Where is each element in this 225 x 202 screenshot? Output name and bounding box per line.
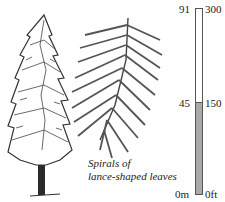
conifer-branch-icon — [72, 18, 162, 158]
caption-line-2: lance-shaped leaves — [88, 170, 177, 183]
scale-label-ft-top: 300 — [205, 3, 222, 15]
scale-label-ft-mid: 150 — [205, 97, 222, 109]
scale-label-ft-bottom: 0ft — [205, 188, 217, 200]
caption: Spirals of lance-shaped leaves — [88, 157, 177, 183]
height-scale-bar — [195, 8, 203, 195]
caption-line-1: Spirals of — [88, 157, 177, 170]
conifer-tree-icon — [8, 15, 72, 196]
scale-label-m-top: 91 — [179, 3, 190, 15]
scale-midpoint-tick — [196, 102, 202, 103]
scale-label-m-mid: 45 — [179, 97, 190, 109]
scale-label-m-bottom: 0m — [175, 188, 189, 200]
scale-fill — [196, 102, 202, 195]
